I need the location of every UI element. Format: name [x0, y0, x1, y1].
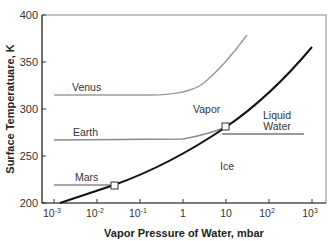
x-axis-title: Vapor Pressure of Water, mbar	[104, 227, 264, 239]
y-tick-400: 400	[20, 9, 38, 21]
earth-triple-point-marker	[222, 123, 229, 130]
phase-diagram-chart: 400 350 300 250 200 10-3 10-2 10-1 1 10 …	[0, 0, 335, 241]
x-tick-1e-3: 10-3	[43, 207, 61, 219]
x-tick-1e3: 103	[302, 207, 318, 219]
x-tick-1e-1: 10-1	[129, 207, 147, 219]
water-region-label: Water	[263, 120, 291, 132]
x-tick-1: 1	[180, 207, 186, 219]
venus-label: Venus	[72, 81, 101, 93]
x-tick-10: 10	[220, 207, 232, 219]
y-tick-labels: 400 350 300 250 200	[20, 9, 38, 209]
y-tick-300: 300	[20, 103, 38, 115]
y-tick-350: 350	[20, 56, 38, 68]
ice-region-label: Ice	[220, 160, 234, 172]
x-tick-1e2: 102	[259, 207, 275, 219]
x-tick-1e-2: 10-2	[86, 207, 104, 219]
vapor-region-label: Vapor	[193, 103, 221, 115]
x-tick-labels: 10-3 10-2 10-1 1 10 102 103	[43, 207, 318, 219]
mars-label: Mars	[75, 171, 98, 183]
mars-triple-point-marker	[111, 182, 118, 189]
earth-label: Earth	[73, 126, 98, 138]
y-tick-250: 250	[20, 150, 38, 162]
y-tick-200: 200	[20, 197, 38, 209]
y-axis-title: Surface Temperatuare, K	[4, 44, 16, 173]
